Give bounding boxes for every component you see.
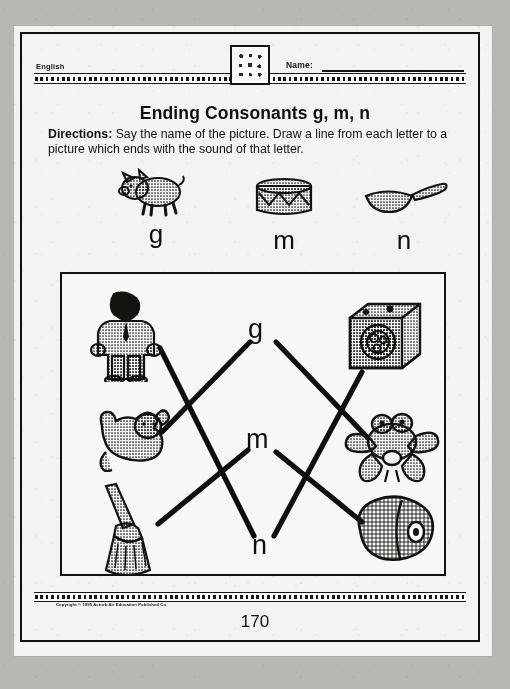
emblem-symbols — [234, 49, 266, 81]
copyright-notice: Copyright © 1995 Acturb Air Education Pu… — [56, 602, 167, 607]
worksheet-header: English Name: — [34, 48, 466, 92]
pig-illustration-icon — [96, 168, 216, 220]
frog-illustration-icon[interactable] — [344, 408, 440, 492]
exercise-letter-m[interactable]: m — [246, 426, 269, 453]
footer-rule-dashes — [35, 595, 465, 599]
subject-label: English — [36, 62, 65, 71]
example-letter: n — [344, 227, 464, 253]
broom-illustration-icon[interactable] — [90, 482, 160, 578]
name-label: Name: — [286, 60, 313, 70]
name-write-in-line[interactable] — [322, 70, 464, 72]
pan-illustration-icon — [344, 174, 464, 226]
decorative-symbol-tile-icon — [230, 45, 270, 85]
example-drum: m — [224, 174, 344, 253]
drum-illustration-icon — [224, 174, 344, 226]
man-illustration-icon[interactable] — [84, 290, 168, 386]
footer-rule-band — [34, 592, 466, 602]
exercise-box: g m n — [60, 272, 446, 576]
example-letter: m — [224, 227, 344, 253]
ham-illustration-icon[interactable] — [350, 492, 438, 570]
directions-text: Directions: Say the name of the picture.… — [48, 127, 452, 157]
page-number: 170 — [0, 612, 510, 632]
drum-machine-illustration-icon[interactable] — [344, 296, 428, 386]
directions-label: Directions: — [48, 127, 112, 141]
dog-illustration-icon[interactable] — [84, 396, 172, 476]
page-title: Ending Consonants g, m, n — [0, 103, 510, 124]
example-letter: g — [96, 221, 216, 247]
example-pig: g — [96, 168, 216, 247]
example-pan: n — [344, 174, 464, 253]
exercise-letter-g[interactable]: g — [248, 316, 263, 343]
example-row: g m — [34, 168, 470, 258]
exercise-letter-n[interactable]: n — [252, 532, 267, 559]
line-g-dog — [162, 342, 250, 432]
